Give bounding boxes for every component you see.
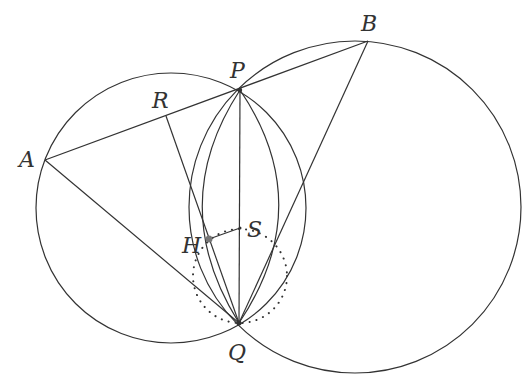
segment-AB (45, 41, 368, 160)
label-H: H (181, 233, 202, 258)
label-R: R (151, 88, 169, 113)
point-Q (237, 321, 242, 326)
label-B: B (360, 11, 377, 36)
segment-HS (209, 228, 240, 239)
label-S: S (247, 217, 262, 242)
arc-right (239, 90, 279, 323)
dotted-circle (193, 229, 287, 323)
geometry-diagram: A B P Q R H S (0, 0, 524, 385)
label-P: P (229, 58, 246, 83)
point-H (206, 236, 213, 243)
label-Q: Q (228, 340, 246, 365)
label-A: A (17, 147, 35, 172)
point-P (238, 88, 242, 92)
segment-BQ (239, 41, 368, 323)
segment-PQ (239, 90, 240, 323)
arc-through-H (202, 90, 240, 323)
point-S (239, 227, 242, 230)
